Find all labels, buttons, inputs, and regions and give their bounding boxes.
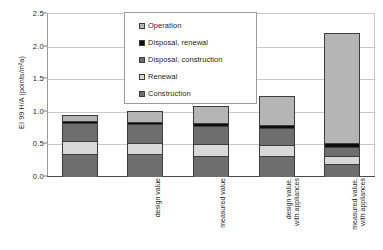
bar-segment[interactable] [260,146,294,156]
bar-segment[interactable] [194,107,228,124]
bar-segment[interactable] [128,112,162,123]
x-axis-category-label: measured value [219,178,227,248]
x-axis-category-label: design value, with appliances [285,178,302,248]
bar-segment[interactable] [128,144,162,155]
x-axis-category-label: measured value, with appliances [351,178,368,248]
legend-label: Disposal, construction [148,55,223,64]
legend-swatch-icon [139,57,145,63]
bar-segment[interactable] [63,124,97,142]
y-axis-tick-label: 0.0 [4,172,44,181]
y-axis-tick-label: 1.5 [4,74,44,83]
legend-item[interactable]: Operation [139,17,256,34]
legend-item[interactable]: Construction [139,85,256,102]
bar-segment[interactable] [128,125,162,144]
legend-items: OperationDisposal, renewalDisposal, cons… [139,17,256,102]
bar-segment[interactable] [63,155,97,177]
legend-item[interactable]: Disposal, renewal [139,34,256,51]
y-axis-tick-label: 1.0 [4,106,44,115]
y-axis-tick-label: 2.5 [4,9,44,18]
legend-swatch-icon [139,23,145,29]
bar-segment[interactable] [325,157,359,165]
bar-segment[interactable] [194,127,228,145]
x-axis-category-labels: design valuemeasured valuedesign value, … [47,178,375,248]
legend-swatch-icon [139,91,145,97]
bar-segment[interactable] [325,165,359,177]
legend-label: Disposal, renewal [148,38,208,47]
legend-swatch-icon [139,40,145,46]
legend-swatch-icon [139,74,145,80]
legend-label: Operation [148,21,181,30]
legend-label: Construction [148,89,191,98]
y-axis-tick-label: 0.5 [4,139,44,148]
stacked-bar[interactable] [259,96,295,176]
stacked-bar[interactable] [62,115,98,176]
stacked-bar[interactable] [127,111,163,176]
stacked-bar[interactable] [324,33,360,176]
y-axis-tick-label: 2.0 [4,41,44,50]
stacked-bar-chart: EI 99 H/A (points/m²a) 0.00.51.01.52.02.… [0,0,383,250]
legend-label: Renewal [148,72,177,81]
bar-segment[interactable] [194,157,228,177]
bar-segment[interactable] [325,34,359,145]
stacked-bar[interactable] [193,106,229,176]
bar-segment[interactable] [260,97,294,126]
chart-legend: OperationDisposal, renewalDisposal, cons… [124,12,257,104]
bar-segment[interactable] [260,129,294,147]
bar-segment[interactable] [194,145,228,157]
bar-segment[interactable] [128,155,162,177]
legend-item[interactable]: Disposal, construction [139,51,256,68]
x-axis-category-label: design value [154,178,162,248]
bar-segment[interactable] [260,157,294,177]
legend-item[interactable]: Renewal [139,68,256,85]
bar-segment[interactable] [63,142,97,155]
bar-segment[interactable] [325,148,359,156]
